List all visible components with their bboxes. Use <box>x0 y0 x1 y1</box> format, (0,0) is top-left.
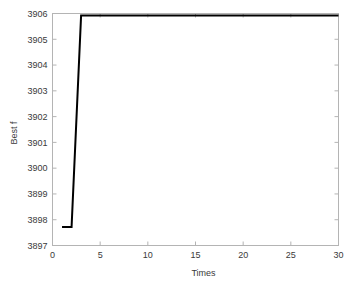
y-tick-label: 3905 <box>27 35 47 45</box>
y-axis-label: Best f <box>9 103 19 163</box>
x-tick-label: 0 <box>50 250 55 260</box>
axis-box <box>53 14 339 246</box>
x-tick-label: 20 <box>238 250 248 260</box>
data-line <box>62 16 338 227</box>
y-tick-label: 3897 <box>27 241 47 251</box>
chart-figure: 0510152025303897389838993900390139023903… <box>0 0 355 289</box>
x-tick-label: 30 <box>333 250 343 260</box>
y-tick-label: 3902 <box>27 112 47 122</box>
x-tick-label: 15 <box>190 250 200 260</box>
y-tick-label: 3898 <box>27 215 47 225</box>
x-tick-label: 5 <box>98 250 103 260</box>
y-tick-label: 3903 <box>27 86 47 96</box>
y-tick-label: 3899 <box>27 189 47 199</box>
x-tick-label: 10 <box>143 250 153 260</box>
plot-canvas: 0510152025303897389838993900390139023903… <box>0 0 355 289</box>
x-axis-label: Times <box>26 268 355 278</box>
y-tick-label: 3904 <box>27 60 47 70</box>
y-tick-label: 3900 <box>27 163 47 173</box>
x-tick-label: 25 <box>286 250 296 260</box>
y-tick-label: 3906 <box>27 9 47 19</box>
y-tick-label: 3901 <box>27 138 47 148</box>
